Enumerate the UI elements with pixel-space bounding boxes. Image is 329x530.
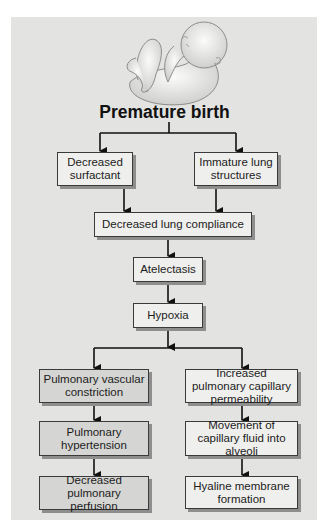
node-label: Decreased lung compliance xyxy=(102,218,244,231)
node-label: Immature lung structures xyxy=(197,156,275,182)
node-decreased-lung-compliance: Decreased lung compliance xyxy=(94,212,252,237)
node-label: Atelectasis xyxy=(140,263,196,276)
node-label: Decreased pulmonary perfusion xyxy=(42,474,146,513)
node-label: Hypoxia xyxy=(147,309,189,322)
node-pulmonary-vascular-constriction: Pulmonary vascular constriction xyxy=(39,369,149,403)
node-label: Decreased surfactant xyxy=(60,156,130,182)
node-movement-of-capillary-fluid: Movement of capillary fluid into alveoli xyxy=(185,421,298,456)
node-label: Increased pulmonary capillary permeabili… xyxy=(188,367,295,406)
node-label: Movement of capillary fluid into alveoli xyxy=(188,419,295,458)
node-increased-capillary-permeability: Increased pulmonary capillary permeabili… xyxy=(185,369,298,403)
node-hypoxia: Hypoxia xyxy=(133,303,203,328)
node-atelectasis: Atelectasis xyxy=(133,257,203,282)
node-label: Pulmonary vascular constriction xyxy=(42,373,146,399)
node-decreased-pulmonary-perfusion: Decreased pulmonary perfusion xyxy=(39,476,149,510)
node-label: Pulmonary hypertension xyxy=(42,426,146,452)
node-decreased-surfactant: Decreased surfactant xyxy=(57,152,133,186)
node-pulmonary-hypertension: Pulmonary hypertension xyxy=(39,421,149,456)
node-immature-lung-structures: Immature lung structures xyxy=(194,152,278,186)
node-hyaline-membrane-formation: Hyaline membrane formation xyxy=(185,476,298,509)
node-label: Hyaline membrane formation xyxy=(188,480,295,506)
